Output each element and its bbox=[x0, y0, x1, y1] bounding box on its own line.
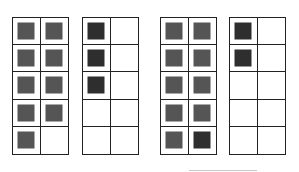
frame-cell bbox=[189, 127, 217, 154]
dark-counter-square bbox=[88, 77, 105, 94]
frame-cell bbox=[189, 18, 217, 45]
frame-cell bbox=[189, 72, 217, 99]
frame-cell bbox=[83, 100, 111, 127]
frame-cell bbox=[111, 100, 139, 127]
frame-cell bbox=[230, 18, 258, 45]
medium-counter-square bbox=[46, 77, 63, 94]
frame-cell bbox=[161, 18, 189, 45]
frame-cell bbox=[83, 18, 111, 45]
ten-frame-3 bbox=[160, 17, 217, 155]
frame-cell bbox=[111, 72, 139, 99]
dark-counter-square bbox=[88, 23, 105, 40]
frame-cell bbox=[258, 18, 286, 45]
frame-cell bbox=[41, 45, 69, 72]
frame-cell bbox=[258, 127, 286, 154]
ten-frame-4 bbox=[229, 17, 286, 155]
medium-counter-square bbox=[194, 50, 211, 67]
medium-counter-square bbox=[46, 23, 63, 40]
dark-counter-square bbox=[88, 50, 105, 67]
medium-counter-square bbox=[166, 23, 183, 40]
medium-counter-square bbox=[166, 104, 183, 121]
medium-counter-square bbox=[194, 104, 211, 121]
medium-counter-square bbox=[18, 104, 35, 121]
frame-cell bbox=[13, 18, 41, 45]
ten-frame-1 bbox=[12, 17, 69, 155]
medium-counter-square bbox=[194, 77, 211, 94]
frame-cell bbox=[161, 45, 189, 72]
frame-cell bbox=[258, 100, 286, 127]
frame-cell bbox=[230, 72, 258, 99]
medium-counter-square bbox=[166, 132, 183, 149]
frame-cell bbox=[161, 100, 189, 127]
frame-cell bbox=[41, 100, 69, 127]
frame-cell bbox=[13, 100, 41, 127]
frame-cell bbox=[230, 45, 258, 72]
ten-frame-2 bbox=[82, 17, 139, 155]
frame-cell bbox=[258, 72, 286, 99]
medium-counter-square bbox=[18, 77, 35, 94]
frame-cell bbox=[41, 127, 69, 154]
medium-counter-square bbox=[18, 23, 35, 40]
medium-counter-square bbox=[18, 50, 35, 67]
frame-cell bbox=[230, 100, 258, 127]
frame-cell bbox=[41, 72, 69, 99]
dark-counter-square bbox=[235, 23, 252, 40]
frame-cell bbox=[111, 45, 139, 72]
frame-cell bbox=[83, 72, 111, 99]
frame-cell bbox=[83, 45, 111, 72]
answer-line bbox=[189, 170, 257, 171]
medium-counter-square bbox=[46, 50, 63, 67]
medium-counter-square bbox=[166, 77, 183, 94]
frame-cell bbox=[189, 45, 217, 72]
frame-cell bbox=[111, 127, 139, 154]
frame-cell bbox=[83, 127, 111, 154]
frame-cell bbox=[161, 127, 189, 154]
frame-cell bbox=[41, 18, 69, 45]
medium-counter-square bbox=[166, 50, 183, 67]
dark-counter-square bbox=[235, 50, 252, 67]
frame-cell bbox=[189, 100, 217, 127]
medium-counter-square bbox=[46, 104, 63, 121]
medium-counter-square bbox=[194, 23, 211, 40]
frame-cell bbox=[230, 127, 258, 154]
frame-cell bbox=[13, 45, 41, 72]
frame-cell bbox=[111, 18, 139, 45]
dark-counter-square bbox=[194, 132, 211, 149]
medium-counter-square bbox=[18, 132, 35, 149]
frame-cell bbox=[161, 72, 189, 99]
frame-cell bbox=[13, 72, 41, 99]
frame-cell bbox=[258, 45, 286, 72]
frame-cell bbox=[13, 127, 41, 154]
